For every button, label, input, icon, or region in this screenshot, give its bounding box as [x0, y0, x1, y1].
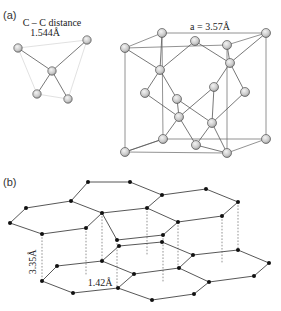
carbon-atom [241, 88, 250, 97]
carbon-atom [175, 113, 184, 122]
cube-edge [227, 33, 266, 45]
tetrahedron-atoms [14, 36, 91, 103]
cc-bond [212, 87, 214, 123]
cc-bond [162, 242, 193, 255]
carbon-atom [236, 248, 240, 252]
cc-bond [26, 201, 71, 208]
carbon-atom [86, 180, 90, 184]
cc-bond [147, 208, 178, 222]
faint-edge [37, 94, 68, 99]
carbon-atom [14, 44, 22, 52]
carbon-atom [100, 211, 104, 215]
cc-bond [152, 294, 194, 300]
lattice-constant-label: a = 3.57Å [190, 21, 231, 32]
cc-bond [73, 288, 118, 293]
carbon-atom [116, 286, 120, 290]
carbon-atom [69, 199, 73, 203]
cc-bond [212, 92, 245, 123]
cc-bond [230, 33, 266, 63]
carbon-atom [128, 180, 132, 184]
carbon-atom [173, 95, 182, 104]
carbon-atom [145, 206, 149, 210]
carbon-atom [64, 95, 72, 103]
cc-bond [10, 208, 26, 223]
carbon-atom [158, 29, 167, 38]
diamond-unit-cell: a = 3.57Å [121, 21, 271, 158]
cc-bond [10, 223, 42, 234]
carbon-atom [132, 272, 136, 276]
cc-bond [18, 48, 52, 71]
carbon-atom [161, 233, 165, 237]
cc-bond [125, 48, 160, 70]
cube-edge [162, 33, 163, 139]
carbon-atom [262, 135, 271, 144]
cc-bond [230, 63, 245, 92]
carbon-atom [141, 89, 150, 98]
cc-bond [57, 261, 102, 266]
carbon-atom [48, 67, 56, 75]
carbon-atom [176, 220, 180, 224]
panel-b-label: (b) [3, 176, 16, 188]
cube-edge [125, 33, 162, 48]
carbon-atom [121, 44, 130, 53]
cc-bond [86, 213, 102, 228]
carbon-atom [156, 66, 165, 75]
carbon-atom [84, 226, 88, 230]
cc-bond [102, 213, 117, 240]
cube-edge [125, 152, 227, 153]
carbon-atom [71, 291, 75, 295]
graphite-top-layer [8, 180, 240, 242]
carbon-atom [117, 244, 121, 248]
carbon-atom [40, 232, 44, 236]
cc-bond [130, 182, 162, 195]
graphite-bottom-layer [40, 240, 271, 302]
cc-bond [42, 266, 57, 281]
panel-a: (a) C – C distance 1.544Å a = 3.57Å [3, 9, 271, 158]
carbon-atom [204, 187, 208, 191]
cc-bond [71, 182, 88, 201]
carbon-atom [177, 266, 181, 270]
cc-bond [163, 222, 178, 235]
carbon-atom [223, 41, 232, 50]
cc-bond [102, 261, 134, 274]
interlayer-distance-label: 3.35Å [27, 249, 38, 275]
cube-edge [227, 139, 266, 153]
carbon-atom [115, 238, 119, 242]
carbon-atom [55, 264, 59, 268]
cc-bond [119, 242, 162, 246]
cc-bond [194, 282, 209, 294]
cube-edge [125, 45, 227, 48]
cc-bond [42, 281, 73, 293]
cc-bond [117, 235, 163, 240]
faint-edge [18, 40, 87, 48]
graphite-structure: 3.35Å 1.42Å [8, 180, 271, 302]
carbon-atom [160, 193, 164, 197]
cc-bond [206, 189, 238, 202]
cc-bond [179, 255, 193, 268]
cc-bond [118, 274, 134, 288]
cc-bond [254, 263, 269, 276]
cc-bond [147, 195, 162, 208]
carbon-atom [192, 292, 196, 296]
cc-bond [178, 216, 222, 222]
cc-bond [179, 117, 196, 145]
panel-a-label: (a) [3, 9, 16, 21]
cc-bond [71, 201, 102, 213]
carbon-atom [192, 141, 201, 150]
carbon-atom [100, 259, 104, 263]
carbon-atom [252, 274, 256, 278]
cc-bond [134, 268, 179, 274]
cc-bond [125, 139, 163, 152]
panel-b: (b) 3.35Å 1.42Å [3, 176, 271, 302]
cc-bond [179, 268, 209, 282]
carbon-atom [191, 253, 195, 257]
carbon-atom [210, 83, 219, 92]
carbon-structures-figure: (a) C – C distance 1.544Å a = 3.57Å (b) … [0, 0, 281, 311]
tetrahedron-diagram: C – C distance 1.544Å [14, 17, 91, 103]
cc-bond [42, 228, 86, 234]
carbon-atom [121, 148, 130, 157]
carbon-atom [83, 36, 91, 44]
carbon-atom [159, 135, 168, 144]
cc-bond [52, 71, 68, 99]
cc-bond [212, 123, 227, 153]
